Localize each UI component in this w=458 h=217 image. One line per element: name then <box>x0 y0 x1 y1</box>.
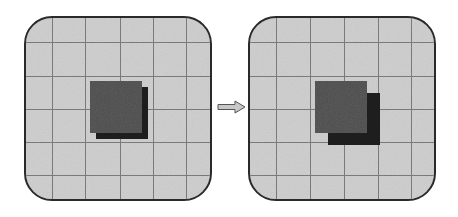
front-square <box>315 81 367 133</box>
grid-line <box>26 175 210 176</box>
grid-line <box>26 42 210 43</box>
front-square <box>90 81 142 133</box>
arrow-right-icon <box>217 100 246 114</box>
grid-line <box>26 142 210 143</box>
after-panel <box>248 16 436 201</box>
grid-line <box>26 76 210 77</box>
grid-line <box>250 42 434 43</box>
grid-line <box>250 76 434 77</box>
grid-line <box>250 175 434 176</box>
before-panel <box>24 16 212 201</box>
